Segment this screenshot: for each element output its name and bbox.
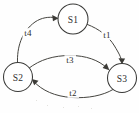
state-node-s1[interactable]: S1 [58,4,88,34]
transition-t4-path [17,17,55,62]
state-s1-label: S1 [68,15,78,25]
transition-t2-label: t2 [69,88,76,98]
state-s2-label: S2 [13,73,23,83]
transition-t4[interactable]: t4 [17,15,58,63]
scan-noise [36,100,92,109]
transition-t4-label: t4 [24,28,32,38]
transition-t3-arrowhead [103,63,110,70]
state-diagram-container: t4 t1 t3 t2 S1 S2 [0,0,139,113]
transition-t1-label: t1 [103,30,110,40]
transition-t3-label: t3 [66,55,74,65]
state-node-s2[interactable]: S2 [4,63,33,92]
transition-t3[interactable]: t3 [29,55,110,70]
state-s3-label: S3 [117,74,127,84]
transition-t1[interactable]: t1 [88,25,126,65]
state-diagram-canvas: t4 t1 t3 t2 S1 S2 [0,0,139,113]
state-node-s3[interactable]: S3 [108,64,137,93]
transition-t2[interactable]: t2 [32,79,113,98]
